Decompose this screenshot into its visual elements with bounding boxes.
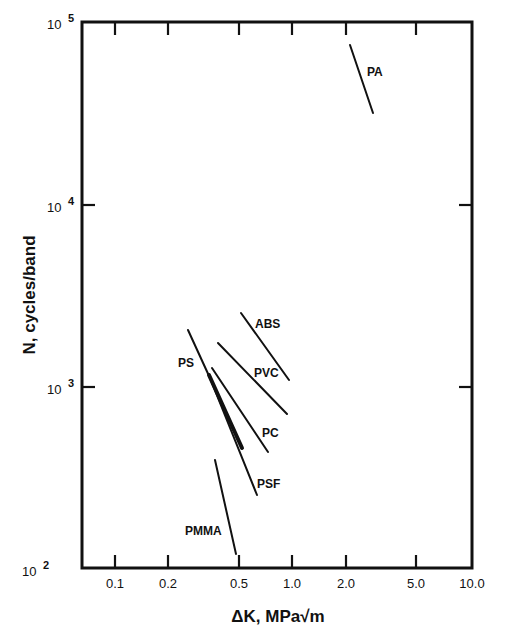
series-lines xyxy=(188,45,373,554)
x-tick-labels: 0.1 0.2 0.5 1.0 2.0 5.0 10.0 xyxy=(106,576,485,591)
label-psf: PSF xyxy=(257,477,280,491)
y-axis-title: N, cycles/band xyxy=(20,235,39,354)
label-pmma: PMMA xyxy=(185,524,222,538)
fatigue-chart: 0.1 0.2 0.5 1.0 2.0 5.0 10.0 10 5 10 4 1… xyxy=(0,0,506,634)
svg-text:5.0: 5.0 xyxy=(407,576,425,591)
label-pc: PC xyxy=(262,426,279,440)
label-ps: PS xyxy=(178,356,194,370)
svg-text:10.0: 10.0 xyxy=(459,576,484,591)
svg-text:3: 3 xyxy=(68,377,74,389)
svg-text:1.0: 1.0 xyxy=(283,576,301,591)
svg-text:2: 2 xyxy=(43,559,49,571)
svg-text:4: 4 xyxy=(68,195,75,207)
label-pa: PA xyxy=(367,65,383,79)
svg-text:0.1: 0.1 xyxy=(106,576,124,591)
label-abs: ABS xyxy=(255,317,280,331)
svg-text:2.0: 2.0 xyxy=(337,576,355,591)
x-axis-title: ΔK, MPa√m xyxy=(231,607,324,626)
y-ticks xyxy=(82,205,472,387)
series-labels: PA ABS PS PVC PC PSF PMMA xyxy=(178,65,383,538)
label-pvc: PVC xyxy=(254,366,279,380)
svg-text:0.5: 0.5 xyxy=(230,576,248,591)
series-line-psf xyxy=(210,378,257,495)
series-line-pmma xyxy=(215,460,236,554)
svg-text:10: 10 xyxy=(47,200,61,215)
series-line-pa xyxy=(350,45,373,113)
svg-text:10: 10 xyxy=(47,382,61,397)
svg-text:5: 5 xyxy=(68,12,74,24)
svg-text:0.2: 0.2 xyxy=(159,576,177,591)
svg-text:10: 10 xyxy=(22,564,36,579)
svg-text:10: 10 xyxy=(47,17,61,32)
